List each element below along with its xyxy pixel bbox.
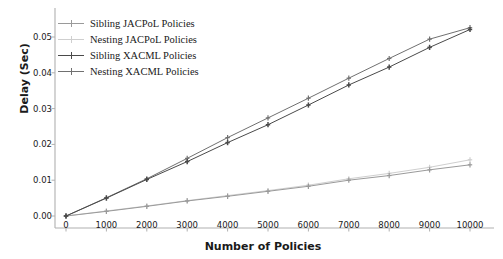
data-point-marker	[64, 213, 68, 218]
y-tick-label: 0.03	[18, 104, 52, 114]
data-point-marker	[225, 135, 229, 140]
chart-figure: Delay (Sec) 0.000.010.020.030.040.05 010…	[0, 0, 503, 259]
legend-item: Sibling JACPoL Policies	[58, 16, 199, 31]
data-point-marker	[468, 157, 472, 162]
y-tick-label: 0.02	[18, 139, 52, 149]
data-point-marker	[104, 196, 108, 201]
legend-marker-icon	[58, 34, 84, 46]
legend-marker-icon	[58, 18, 84, 30]
legend-marker-icon	[58, 66, 84, 78]
x-tick-label: 10000	[440, 220, 500, 230]
data-point-marker	[104, 209, 108, 214]
data-point-marker	[185, 198, 189, 203]
y-tick-label: 0.05	[18, 32, 52, 42]
y-tick-label: 0.04	[18, 68, 52, 78]
legend-label: Nesting JACPoL Policies	[90, 34, 197, 45]
legend-label: Nesting XACML Policies	[90, 66, 199, 77]
data-point-marker	[427, 45, 431, 50]
legend-item: Nesting XACML Policies	[58, 64, 199, 79]
data-point-marker	[185, 159, 189, 164]
data-point-marker	[306, 96, 310, 101]
data-point-marker	[225, 140, 229, 145]
y-tick-label: 0.01	[18, 175, 52, 185]
legend-item: Nesting JACPoL Policies	[58, 32, 199, 47]
legend-label: Sibling XACML Policies	[90, 50, 196, 61]
legend-marker-icon	[58, 50, 84, 62]
data-point-marker	[266, 189, 270, 194]
data-point-marker	[306, 102, 310, 107]
data-point-marker	[145, 204, 149, 209]
data-point-marker	[266, 122, 270, 127]
legend-label: Sibling JACPoL Policies	[90, 18, 195, 29]
data-point-marker	[427, 37, 431, 42]
data-point-marker	[266, 115, 270, 120]
data-point-marker	[225, 194, 229, 199]
data-point-marker	[347, 76, 351, 81]
chart-legend: Sibling JACPoL PoliciesNesting JACPoL Po…	[58, 16, 199, 79]
x-axis-label: Number of Policies	[55, 240, 471, 253]
data-point-marker	[387, 64, 391, 69]
legend-item: Sibling XACML Policies	[58, 48, 199, 63]
data-point-marker	[387, 56, 391, 61]
data-point-marker	[468, 162, 472, 167]
data-point-marker	[347, 82, 351, 87]
